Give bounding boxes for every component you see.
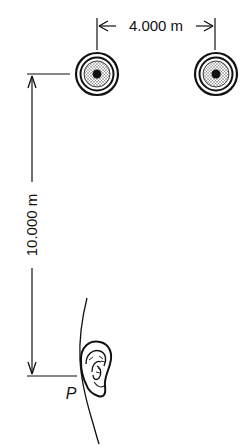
- sound-diagram: 4.000 m 10.000 m P: [0, 0, 249, 446]
- speaker-left-icon: [76, 53, 118, 95]
- vertical-dimension-label: 10.000 m: [23, 194, 40, 257]
- speaker-right-icon: [195, 53, 237, 95]
- horizontal-dimension-label: 4.000 m: [129, 17, 183, 34]
- horizontal-dimension: 4.000 m: [97, 17, 215, 50]
- ear-icon: [80, 298, 111, 444]
- vertical-dimension: 10.000 m: [23, 74, 77, 376]
- point-p-label: P: [66, 385, 77, 402]
